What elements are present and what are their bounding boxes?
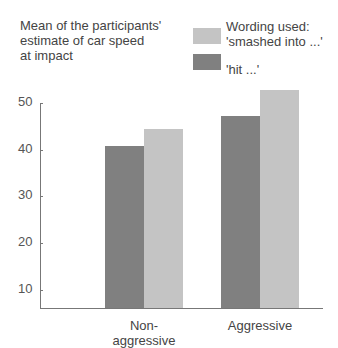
y-axis-title-line: at impact xyxy=(20,48,190,63)
y-tick xyxy=(40,290,43,291)
legend-swatch-smashed xyxy=(193,28,221,44)
y-tick-label: 10 xyxy=(18,281,40,296)
y-tick-label: 20 xyxy=(18,234,40,249)
legend-label-hit: 'hit ...' xyxy=(226,62,259,77)
bar-smashed-non-aggressive xyxy=(144,129,183,308)
bar-hit-non-aggressive xyxy=(105,146,144,308)
bar-smashed-aggressive xyxy=(260,90,299,308)
y-axis-line xyxy=(40,103,41,309)
y-tick xyxy=(40,196,43,197)
y-tick xyxy=(40,103,43,104)
y-axis-title: Mean of the participants' estimate of ca… xyxy=(20,18,190,63)
y-tick xyxy=(40,243,43,244)
bar-hit-aggressive xyxy=(221,116,260,308)
legend-heading: Wording used: xyxy=(226,19,310,34)
y-tick-label: 40 xyxy=(18,141,40,156)
x-category-label: Aggressive xyxy=(216,318,304,333)
legend-label-smashed: 'smashed into ...' xyxy=(226,34,323,49)
y-tick-label: 30 xyxy=(18,187,40,202)
y-axis-title-line: Mean of the participants' xyxy=(20,18,190,33)
x-axis-line xyxy=(40,308,323,309)
y-tick-label: 50 xyxy=(18,94,40,109)
legend-swatch-hit xyxy=(193,54,221,70)
y-axis-title-line: estimate of car speed xyxy=(20,33,190,48)
x-category-label: Non-aggressive xyxy=(100,318,188,348)
y-tick xyxy=(40,150,43,151)
